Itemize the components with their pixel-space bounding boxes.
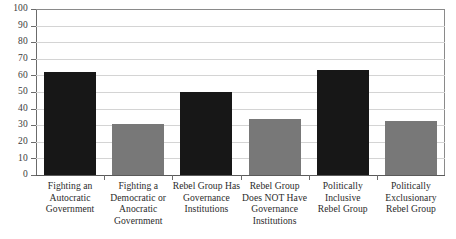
x-axis-label-line: Does NOT Have [242, 192, 307, 203]
x-axis-label-line: Rebel Group [386, 203, 436, 214]
x-axis-label: PoliticallyExclusionaryRebel Group [377, 180, 445, 215]
x-axis-labels: Fighting anAutocraticGovernmentFighting … [36, 180, 445, 239]
y-tick-label: 40 [0, 104, 28, 114]
y-tick-mark [31, 59, 36, 60]
x-axis-label-line: Institutions [185, 203, 229, 214]
x-axis-label-line: Institutions [253, 215, 297, 226]
y-tick-label: 70 [0, 54, 28, 64]
x-axis-label-line: Rebel Group [318, 203, 368, 214]
x-axis-label: Rebel Group HasGovernanceInstitutions [172, 180, 240, 215]
bar[interactable] [249, 119, 301, 175]
x-axis-label-line: Inclusive [325, 192, 361, 203]
bar[interactable] [44, 72, 96, 175]
plot-area [36, 9, 445, 175]
y-tick-mark [31, 42, 36, 43]
x-axis-label: Rebel GroupDoes NOT HaveGovernanceInstit… [241, 180, 309, 226]
x-axis-label-line: Democratic or [110, 192, 166, 203]
x-axis-label-line: Fighting a [118, 180, 158, 191]
x-axis-label-line: Fighting an [48, 180, 93, 191]
y-tick-mark [31, 175, 36, 176]
y-tick-mark [31, 158, 36, 159]
bar[interactable] [317, 70, 369, 175]
y-tick-mark [31, 125, 36, 126]
x-axis-label-line: Politically [391, 180, 431, 191]
y-tick-label: 60 [0, 71, 28, 81]
x-axis-label-line: Anocratic [119, 203, 157, 214]
bar[interactable] [385, 121, 437, 175]
y-tick-label: 100 [0, 4, 28, 14]
x-axis-label-line: Autocratic [50, 192, 91, 203]
x-axis-label-line: Politically [323, 180, 363, 191]
x-axis-label-line: Government [114, 215, 162, 226]
x-axis-label-line: Rebel Group [250, 180, 300, 191]
y-tick-mark [31, 142, 36, 143]
y-tick-label: 10 [0, 154, 28, 164]
y-tick-mark [31, 9, 36, 10]
y-tick-mark [31, 75, 36, 76]
y-tick-label: 0 [0, 170, 28, 180]
y-tick-label: 20 [0, 137, 28, 147]
x-axis-label-line: Governance [183, 192, 230, 203]
x-axis-label: Fighting anAutocraticGovernment [36, 180, 104, 215]
y-tick-label: 50 [0, 87, 28, 97]
bar[interactable] [180, 92, 232, 175]
y-tick-label: 90 [0, 21, 28, 31]
y-tick-mark [31, 26, 36, 27]
y-tick-mark [31, 109, 36, 110]
bar[interactable] [112, 124, 164, 175]
x-axis-label-line: Exclusionary [385, 192, 436, 203]
y-tick-label: 80 [0, 37, 28, 47]
x-axis-label: Fighting aDemocratic orAnocraticGovernme… [104, 180, 172, 226]
y-tick-mark [31, 92, 36, 93]
x-axis-label-line: Governance [251, 203, 298, 214]
x-axis-label-line: Government [46, 203, 94, 214]
x-axis-label: PoliticallyInclusiveRebel Group [309, 180, 377, 215]
y-tick-label: 30 [0, 120, 28, 130]
bar-chart: 1009080706050403020100 Fighting anAutocr… [0, 0, 456, 239]
x-axis-label-line: Rebel Group Has [173, 180, 240, 191]
bars-group [36, 9, 445, 175]
